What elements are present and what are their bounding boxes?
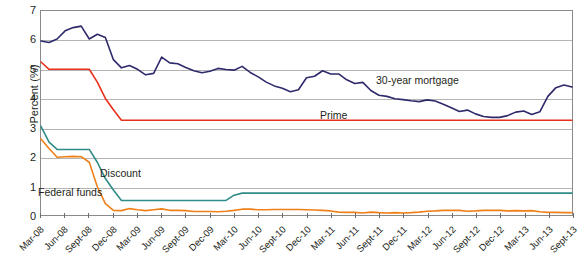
series-line-prime	[41, 62, 572, 120]
y-axis-tick-labels: 01234567	[10, 0, 36, 257]
series-lines	[41, 11, 572, 215]
plot-area	[40, 10, 573, 216]
y-axis-tick-label: 4	[12, 92, 36, 104]
series-label-30-year-mortgage: 30-year mortgage	[376, 74, 459, 86]
y-axis-tick-label: 3	[12, 122, 36, 134]
series-label-discount: Discount	[100, 167, 141, 179]
y-axis-tick-label: 5	[12, 63, 36, 75]
y-axis-tick-label: 6	[12, 33, 36, 45]
x-axis-tick-mark	[573, 213, 574, 218]
y-axis-tick-label: 7	[12, 4, 36, 16]
y-axis-tick-label: 1	[12, 181, 36, 193]
series-label-federal-funds: Federal funds	[38, 186, 102, 198]
y-axis-tick-label: 0	[12, 210, 36, 222]
y-axis-tick-label: 2	[12, 151, 36, 163]
series-label-prime: Prime	[320, 109, 347, 121]
series-line-discount	[41, 126, 572, 200]
interest-rates-chart: Percent (%) 01234567 30-year mortgage Pr…	[0, 0, 588, 257]
series-line-30-year-mortgage	[41, 26, 572, 117]
